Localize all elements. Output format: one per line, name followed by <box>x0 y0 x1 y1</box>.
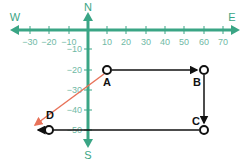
point-b-label: B <box>193 76 201 88</box>
point-a <box>103 66 111 74</box>
east-label: E <box>228 11 235 23</box>
coordinate-diagram: −30 −20 −10 10 20 30 40 50 60 70 −10 −20… <box>0 0 243 161</box>
south-arrow-icon <box>83 139 93 148</box>
point-d-label: D <box>46 109 54 121</box>
x-tick-label: 30 <box>141 37 151 47</box>
y-axis: −10 −20 −30 −40 −50 <box>67 12 93 148</box>
x-tick-label: 20 <box>121 37 131 47</box>
y-tick-label: −10 <box>67 44 82 54</box>
north-label: N <box>84 1 92 13</box>
x-tick-label: 50 <box>179 37 189 47</box>
west-label: W <box>10 11 21 23</box>
y-tick-label: −20 <box>67 65 82 75</box>
north-arrow-icon <box>83 12 93 21</box>
point-c-label: C <box>192 115 200 127</box>
y-tick-label: −30 <box>67 85 82 95</box>
x-tick-label: 10 <box>102 37 112 47</box>
point-c <box>200 126 208 134</box>
y-tick-label: −40 <box>67 105 82 115</box>
point-d <box>45 126 53 134</box>
south-label: S <box>84 149 91 161</box>
point-b <box>200 66 208 74</box>
x-tick-label: 60 <box>199 37 209 47</box>
x-axis: −30 −20 −10 10 20 30 40 50 60 70 <box>10 25 240 47</box>
x-tick-label: −20 <box>41 37 56 47</box>
x-tick-label: −30 <box>22 37 37 47</box>
west-arrow-icon <box>10 25 19 35</box>
x-tick-label: 70 <box>218 37 228 47</box>
point-a-label: A <box>103 76 111 88</box>
x-tick-label: 40 <box>160 37 170 47</box>
east-arrow-icon <box>231 25 240 35</box>
